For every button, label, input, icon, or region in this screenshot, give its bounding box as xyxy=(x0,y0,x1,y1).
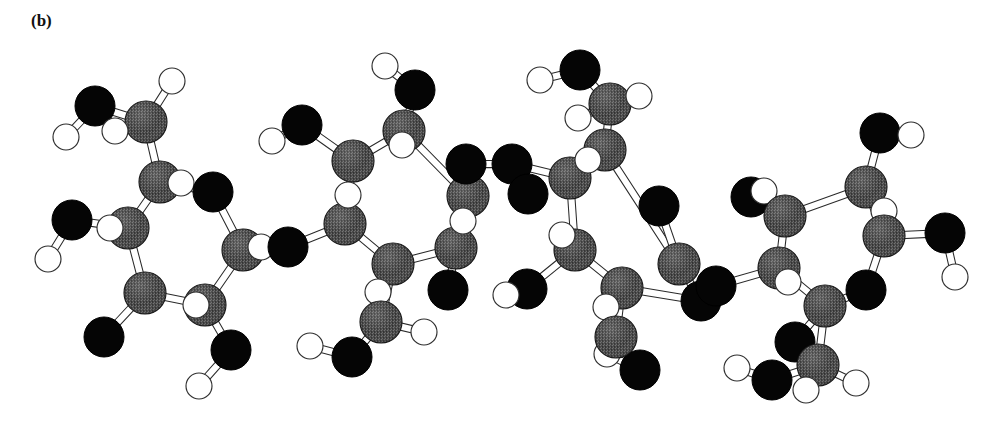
atom-hydrogen xyxy=(186,373,212,399)
atom-oxygen xyxy=(428,270,468,310)
atom-oxygen xyxy=(446,144,486,184)
atom-hydrogen xyxy=(411,319,437,345)
atom-oxygen xyxy=(560,50,600,90)
atom-hydrogen xyxy=(527,67,553,93)
atom-hydrogen xyxy=(626,83,652,109)
atom-carbon xyxy=(863,215,905,257)
atom-layer xyxy=(35,50,968,403)
atom-carbon xyxy=(764,195,806,237)
atom-carbon xyxy=(360,301,402,343)
atom-carbon xyxy=(125,101,167,143)
atom-hydrogen xyxy=(942,264,968,290)
atom-carbon xyxy=(595,316,637,358)
atom-hydrogen xyxy=(843,370,869,396)
atom-hydrogen xyxy=(389,132,415,158)
atom-oxygen xyxy=(282,105,322,145)
atom-hydrogen xyxy=(97,215,123,241)
atom-carbon xyxy=(589,83,631,125)
atom-carbon xyxy=(332,140,374,182)
atom-oxygen xyxy=(752,360,792,400)
atom-hydrogen xyxy=(575,147,601,173)
bond-layer xyxy=(49,68,957,385)
atom-oxygen xyxy=(332,337,372,377)
atom-oxygen xyxy=(846,270,886,310)
atom-hydrogen xyxy=(53,124,79,150)
atom-carbon xyxy=(435,227,477,269)
atom-hydrogen xyxy=(549,222,575,248)
atom-hydrogen xyxy=(335,182,361,208)
atom-hydrogen xyxy=(102,118,128,144)
atom-oxygen xyxy=(52,200,92,240)
atom-carbon xyxy=(804,285,846,327)
atom-hydrogen xyxy=(793,377,819,403)
atom-oxygen xyxy=(84,317,124,357)
atom-hydrogen xyxy=(372,53,398,79)
atom-oxygen xyxy=(925,213,965,253)
atom-oxygen xyxy=(860,113,900,153)
atom-hydrogen xyxy=(775,269,801,295)
atom-hydrogen xyxy=(183,292,209,318)
atom-oxygen xyxy=(696,266,736,306)
atom-carbon xyxy=(124,272,166,314)
atom-carbon xyxy=(658,243,700,285)
atom-oxygen xyxy=(395,70,435,110)
atom-oxygen xyxy=(508,174,548,214)
figure-panel: (b) xyxy=(0,0,1000,423)
atom-hydrogen xyxy=(168,170,194,196)
atom-hydrogen xyxy=(297,333,323,359)
atom-hydrogen xyxy=(259,128,285,154)
atom-hydrogen xyxy=(159,68,185,94)
atom-hydrogen xyxy=(493,282,519,308)
atom-oxygen xyxy=(211,330,251,370)
atom-hydrogen xyxy=(724,355,750,381)
atom-hydrogen xyxy=(35,246,61,272)
atom-hydrogen xyxy=(450,208,476,234)
atom-oxygen xyxy=(268,227,308,267)
molecule-ball-and-stick-diagram xyxy=(0,0,1000,423)
atom-hydrogen xyxy=(898,122,924,148)
atom-oxygen xyxy=(193,172,233,212)
atom-carbon xyxy=(324,203,366,245)
atom-hydrogen xyxy=(565,105,591,131)
atom-oxygen xyxy=(639,186,679,226)
